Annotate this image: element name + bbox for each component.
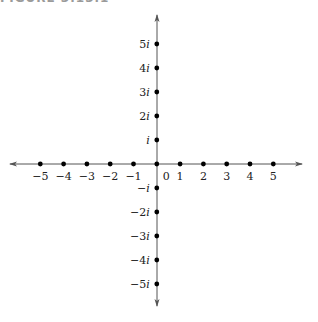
data-point: [154, 90, 159, 95]
data-point: [154, 258, 159, 263]
complex-plane: −5−4−3−2−1012345 5i4i3i2ii−i−2i−3i−4i−5i: [0, 0, 318, 322]
imaginary-tick-label: −2i: [130, 206, 150, 219]
data-point: [85, 162, 90, 167]
data-point: [38, 162, 43, 167]
data-point: [108, 162, 113, 167]
real-tick-label: 2: [200, 170, 207, 183]
imaginary-tick-label: −3i: [130, 230, 150, 243]
real-tick-label: −2: [102, 170, 118, 183]
data-point: [271, 162, 276, 167]
data-point: [154, 210, 159, 215]
real-tick-label: −5: [32, 170, 48, 183]
imaginary-tick-label: 2i: [139, 110, 150, 123]
data-point: [154, 114, 159, 119]
data-point: [154, 138, 159, 143]
data-point: [154, 42, 159, 47]
imaginary-axis: [155, 14, 160, 307]
imaginary-tick-label: 3i: [139, 86, 150, 99]
data-point: [154, 66, 159, 71]
real-tick-label: 0: [163, 170, 170, 183]
data-point: [154, 282, 159, 287]
real-tick-label: 5: [270, 170, 277, 183]
real-tick-label: 3: [223, 170, 230, 183]
data-point: [201, 162, 206, 167]
data-point: [224, 162, 229, 167]
data-point: [131, 162, 136, 167]
data-point: [61, 162, 66, 167]
data-point: [154, 162, 159, 167]
imaginary-tick-label: i: [146, 134, 150, 147]
imaginary-tick-label: 5i: [139, 38, 150, 51]
data-point: [154, 234, 159, 239]
data-point: [154, 186, 159, 191]
real-tick-label: 4: [247, 170, 254, 183]
real-tick-label: −3: [79, 170, 95, 183]
imaginary-tick-label: −5i: [130, 278, 150, 291]
imaginary-tick-label: −i: [137, 182, 150, 195]
imaginary-tick-label: 4i: [139, 62, 150, 75]
real-axis-tick-labels: −5−4−3−2−1012345: [32, 170, 277, 183]
data-point: [248, 162, 253, 167]
real-tick-label: 1: [177, 170, 184, 183]
data-point: [178, 162, 183, 167]
real-tick-label: −4: [55, 170, 71, 183]
imaginary-tick-label: −4i: [130, 254, 150, 267]
